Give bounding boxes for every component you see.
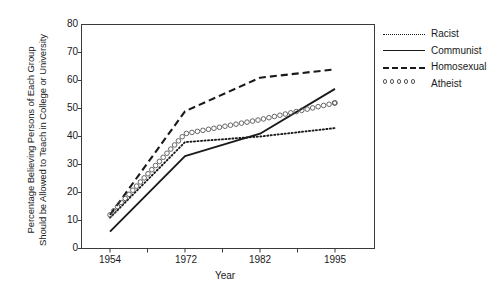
legend-item-racist[interactable]: Racist: [383, 26, 487, 43]
legend-swatch-circles-icon: [383, 78, 425, 89]
data-marker: [146, 171, 151, 176]
legend-item-homosexual[interactable]: Homosexual: [383, 59, 487, 76]
data-marker: [206, 127, 211, 132]
data-marker: [123, 196, 128, 201]
data-marker: [250, 119, 255, 124]
data-marker: [234, 122, 239, 127]
legend: Racist Communist Homosexual Atheist: [383, 26, 487, 92]
series-line: [110, 69, 335, 215]
data-marker: [176, 139, 181, 144]
data-marker: [239, 121, 244, 126]
data-marker: [278, 113, 283, 118]
data-marker: [316, 104, 321, 109]
legend-swatch-dotted-icon: [383, 29, 425, 40]
legend-label-atheist: Atheist: [431, 76, 462, 93]
data-marker: [184, 131, 189, 136]
legend-label-communist: Communist: [431, 43, 482, 60]
data-marker: [161, 155, 166, 160]
series-racist: [110, 128, 335, 218]
data-marker: [228, 123, 233, 128]
legend-swatch-solid-icon: [383, 45, 425, 56]
series-line: [110, 89, 335, 232]
data-marker: [223, 124, 228, 129]
data-marker: [283, 112, 288, 117]
series-homosexual: [110, 69, 335, 215]
data-marker: [165, 151, 170, 156]
data-marker: [321, 103, 326, 108]
legend-label-homosexual: Homosexual: [431, 59, 487, 76]
legend-item-communist[interactable]: Communist: [383, 43, 487, 60]
data-marker: [245, 120, 250, 125]
data-marker: [168, 147, 173, 152]
data-marker: [305, 107, 310, 112]
legend-swatch-dashed-icon: [383, 62, 425, 73]
data-marker: [267, 115, 272, 120]
data-marker: [130, 188, 135, 193]
data-marker: [310, 106, 315, 111]
data-marker: [138, 180, 143, 185]
data-marker: [201, 128, 206, 133]
data-marker: [149, 167, 154, 172]
data-marker: [217, 125, 222, 130]
data-marker: [172, 143, 177, 148]
data-marker: [142, 176, 147, 181]
data-marker: [153, 163, 158, 168]
data-marker: [195, 129, 200, 134]
series-line: [110, 128, 335, 218]
data-marker: [272, 114, 277, 119]
data-marker: [212, 126, 217, 131]
x-axis-ticks: [110, 249, 335, 253]
data-marker: [157, 159, 162, 164]
data-marker: [180, 134, 185, 139]
data-marker: [261, 117, 266, 122]
data-marker: [134, 184, 139, 189]
legend-label-racist: Racist: [431, 26, 459, 43]
data-marker: [127, 192, 132, 197]
data-marker: [190, 130, 195, 135]
data-series-layer: [108, 69, 338, 231]
legend-item-atheist[interactable]: Atheist: [383, 76, 487, 93]
series-communist: [110, 89, 335, 232]
data-marker: [327, 102, 332, 107]
data-marker: [256, 118, 261, 123]
